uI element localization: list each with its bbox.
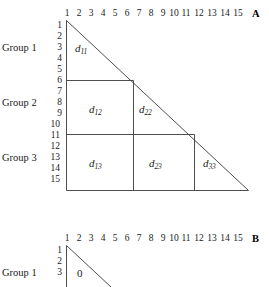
panel-a: A 1 2 3 4 5 6 7 8 9 10 11 12 13 14 15 1 … <box>0 0 269 210</box>
panel-a-col-header-1: 1 <box>61 8 73 18</box>
panel-a-col-header-10: 10 <box>168 8 180 18</box>
panel-b-row-header-2: 2 <box>48 256 62 266</box>
panel-a-block-label-d12: d12 <box>89 103 102 119</box>
panel-b-row-header-1: 1 <box>48 245 62 255</box>
panel-b-col-header-3: 3 <box>85 233 97 243</box>
panel-b-letter: B <box>252 233 259 244</box>
panel-a-block-label-d22: d22 <box>139 103 152 119</box>
panel-b-col-header-13: 13 <box>206 233 218 243</box>
panel-a-row-header-11: 11 <box>46 130 60 140</box>
panel-a-row-header-6: 6 <box>48 75 62 85</box>
panel-a-col-header-13: 13 <box>206 8 218 18</box>
panel-a-col-header-8: 8 <box>145 8 157 18</box>
panel-b-col-header-8: 8 <box>145 233 157 243</box>
panel-a-col-header-3: 3 <box>85 8 97 18</box>
panel-a-col-header-5: 5 <box>109 8 121 18</box>
panel-b-col-header-6: 6 <box>121 233 133 243</box>
panel-b: B 1 2 3 4 5 6 7 8 9 10 11 12 13 14 15 1 … <box>0 225 269 287</box>
panel-a-block-label-d13: d13 <box>89 157 102 173</box>
panel-a-block-label-d23: d23 <box>149 157 162 173</box>
panel-a-row-header-5: 5 <box>48 64 62 74</box>
panel-a-row-header-13: 13 <box>46 152 60 162</box>
panel-a-row-header-7: 7 <box>48 86 62 96</box>
panel-a-block-d13-subscript: 13 <box>95 162 102 171</box>
panel-a-row-header-1: 1 <box>48 20 62 30</box>
panel-a-row-header-9: 9 <box>48 108 62 118</box>
panel-b-col-header-14: 14 <box>219 233 231 243</box>
panel-a-row-header-15: 15 <box>46 174 60 184</box>
panel-a-col-header-15: 15 <box>232 8 244 18</box>
panel-b-col-header-11: 11 <box>180 233 192 243</box>
panel-a-block-label-d11: d11 <box>75 42 87 58</box>
panel-a-row-header-14: 14 <box>46 163 60 173</box>
panel-b-col-header-12: 12 <box>193 233 205 243</box>
panel-a-row-header-2: 2 <box>48 31 62 41</box>
panel-b-col-header-1: 1 <box>61 233 73 243</box>
panel-a-block-d12-subscript: 12 <box>95 108 102 117</box>
panel-a-geometry <box>0 0 269 210</box>
panel-b-col-header-4: 4 <box>97 233 109 243</box>
panel-a-group-label-1: Group 1 <box>2 42 37 53</box>
panel-a-block-d22-subscript: 22 <box>145 108 152 117</box>
panel-a-col-header-6: 6 <box>121 8 133 18</box>
panel-b-col-header-2: 2 <box>73 233 85 243</box>
panel-a-group-label-3: Group 3 <box>2 152 37 163</box>
panel-a-block-d33-subscript: 33 <box>209 162 216 171</box>
panel-a-col-header-7: 7 <box>133 8 145 18</box>
panel-b-col-header-7: 7 <box>133 233 145 243</box>
panel-a-col-header-12: 12 <box>193 8 205 18</box>
panel-a-row-header-12: 12 <box>46 141 60 151</box>
panel-a-letter: A <box>252 8 260 19</box>
panel-b-zero-label: 0 <box>77 267 83 279</box>
panel-a-row-header-8: 8 <box>48 97 62 107</box>
panel-a-col-header-4: 4 <box>97 8 109 18</box>
panel-a-row-header-4: 4 <box>48 53 62 63</box>
figure-canvas: A 1 2 3 4 5 6 7 8 9 10 11 12 13 14 15 1 … <box>0 0 269 287</box>
panel-a-col-header-2: 2 <box>73 8 85 18</box>
panel-a-group-label-2: Group 2 <box>2 97 37 108</box>
panel-a-row-header-3: 3 <box>48 42 62 52</box>
panel-a-block-d11-subscript: 11 <box>81 47 88 56</box>
panel-b-col-header-10: 10 <box>168 233 180 243</box>
panel-b-row-header-3: 3 <box>48 267 62 277</box>
panel-b-col-header-5: 5 <box>109 233 121 243</box>
panel-b-group-label-1: Group 1 <box>2 267 37 278</box>
panel-a-block-d23-subscript: 23 <box>155 162 162 171</box>
panel-b-col-header-15: 15 <box>232 233 244 243</box>
panel-a-col-header-14: 14 <box>219 8 231 18</box>
panel-a-row-header-10: 10 <box>46 119 60 129</box>
panel-b-diagonal-line <box>67 246 112 287</box>
panel-a-col-header-11: 11 <box>180 8 192 18</box>
panel-a-block-label-d33: d33 <box>203 157 216 173</box>
